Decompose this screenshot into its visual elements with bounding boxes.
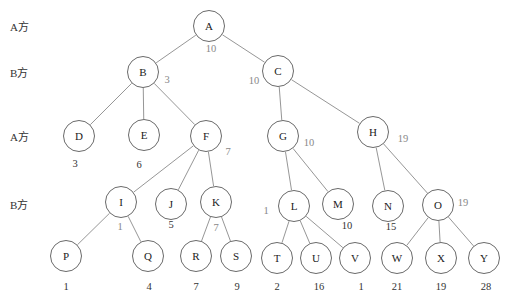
value-x: 19 [436, 281, 447, 292]
edge-O-Y [448, 217, 473, 246]
tree-node-y: Y [468, 242, 500, 274]
edge-B-F [154, 83, 195, 124]
edge-I-P [77, 213, 109, 245]
edge-H-O [384, 144, 428, 193]
edge-F-I [134, 146, 194, 192]
tree-node-q: Q [132, 240, 164, 272]
tree-node-t: T [261, 242, 293, 274]
tree-node-w: W [381, 242, 413, 274]
edge-O-X [439, 221, 440, 242]
value-e: 6 [136, 159, 141, 170]
tree-node-k: K [200, 186, 232, 218]
value-c: 10 [249, 75, 260, 86]
edge-K-S [222, 217, 231, 241]
value-h: 19 [398, 133, 409, 144]
edge-C-H [291, 80, 359, 124]
value-f: 7 [225, 146, 230, 157]
tree-node-f: F [190, 120, 222, 152]
tree-node-n: N [372, 190, 404, 222]
value-l: 1 [263, 205, 268, 216]
player-label: A方 [10, 18, 29, 34]
tree-node-p: P [50, 240, 82, 272]
edge-A-B [156, 35, 196, 63]
tree-node-c: C [262, 55, 294, 87]
tree-node-a: A [193, 10, 225, 42]
edge-G-L [285, 152, 291, 190]
value-k: 7 [213, 222, 218, 233]
edge-G-M [293, 148, 328, 191]
edge-L-U [300, 221, 310, 244]
edge-O-W [407, 218, 428, 246]
edge-K-R [202, 217, 211, 241]
player-label: B方 [10, 64, 28, 80]
game-tree-diagram: A方B方A方B方 ABCDEFGHIJKLMNOPQRSTUVWXY 10310… [0, 0, 511, 302]
edge-A-C [222, 35, 264, 63]
tree-node-i: I [105, 186, 137, 218]
tree-node-b: B [127, 56, 159, 88]
value-o: 19 [458, 197, 469, 208]
value-w: 21 [392, 281, 403, 292]
value-i: 1 [117, 221, 122, 232]
tree-node-g: G [267, 120, 299, 152]
value-p: 1 [63, 281, 68, 292]
edge-L-T [282, 221, 289, 243]
tree-node-l: L [278, 190, 310, 222]
tree-node-v: V [339, 242, 371, 274]
value-u: 16 [314, 281, 325, 292]
edge-B-D [90, 83, 131, 124]
tree-node-j: J [155, 188, 187, 220]
value-a: 10 [206, 43, 217, 54]
value-g: 10 [304, 137, 315, 148]
tree-node-e: E [128, 119, 160, 151]
tree-node-r: R [180, 240, 212, 272]
player-label: A方 [10, 128, 29, 144]
value-m: 10 [342, 220, 353, 231]
tree-node-s: S [220, 240, 252, 272]
value-q: 4 [146, 281, 151, 292]
value-t: 2 [274, 281, 279, 292]
value-s: 9 [234, 281, 239, 292]
edge-C-G [279, 87, 282, 120]
tree-node-o: O [422, 189, 454, 221]
value-j: 5 [168, 219, 173, 230]
value-d: 3 [72, 158, 77, 169]
player-label: B方 [10, 196, 28, 212]
value-b: 3 [164, 74, 169, 85]
edge-F-K [208, 152, 213, 186]
value-n: 15 [386, 221, 397, 232]
tree-node-h: H [357, 116, 389, 148]
edge-H-N [376, 148, 385, 191]
value-y: 28 [481, 281, 492, 292]
tree-node-u: U [300, 242, 332, 274]
tree-node-x: X [425, 242, 457, 274]
tree-node-m: M [322, 188, 354, 220]
value-r: 7 [193, 281, 198, 292]
value-v: 1 [358, 281, 363, 292]
tree-node-d: D [63, 120, 95, 152]
edge-F-J [178, 150, 198, 190]
edge-I-Q [128, 216, 141, 241]
